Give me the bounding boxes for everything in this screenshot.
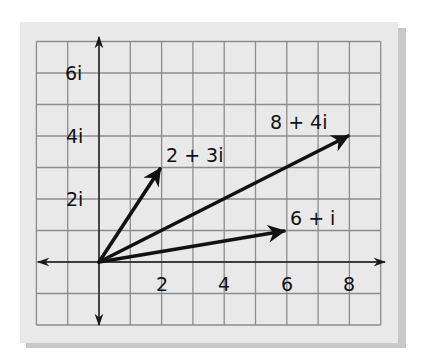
vector-label-6-plus-i: 6 + i [290,207,335,229]
x-tick-label: 2 [156,273,168,295]
x-tick-label: 4 [218,273,230,295]
y-tick-label: 4i [66,125,83,147]
complex-plane-figure: 2 4 6 8 2i 4i 6i 2 + 3i 8 + 4i 6 + i [0,0,425,364]
y-tick-label: 2i [66,188,83,210]
x-tick-label: 8 [343,273,355,295]
vector-label-8-plus-4i: 8 + 4i [270,111,327,133]
y-tick-label: 6i [65,62,82,84]
x-tick-label: 6 [281,273,293,295]
vector-label-2-plus-3i: 2 + 3i [166,144,223,166]
